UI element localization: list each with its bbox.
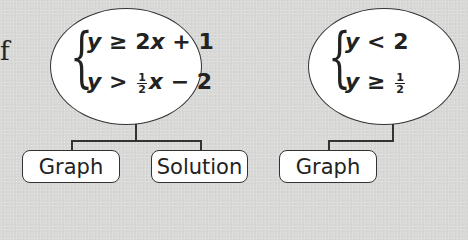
- graph-label: Graph: [39, 155, 103, 179]
- inequality-system-2: { y < 2 y ≥ 12: [328, 18, 468, 114]
- solution-box-1: Solution: [151, 150, 248, 183]
- solution-label: Solution: [157, 155, 243, 179]
- connector-bar-1: [71, 140, 201, 142]
- inequality-line-2: y ≥ 12: [345, 69, 407, 95]
- graph-box-2: Graph: [279, 150, 377, 183]
- inequality-line-1: y < 2: [345, 29, 408, 54]
- fraction: 12: [395, 72, 405, 95]
- graph-label: Graph: [296, 155, 360, 179]
- connector-bar-2: [328, 140, 394, 142]
- inequality-line-2: y > 12x − 2: [87, 69, 212, 95]
- graph-box-1: Graph: [22, 150, 120, 183]
- text-fragment: f: [0, 36, 10, 66]
- fraction: 12: [137, 72, 147, 95]
- inequality-line-1: y ≥ 2x + 1: [87, 29, 214, 54]
- inequality-system-1: { y ≥ 2x + 1 y > 12x − 2: [70, 18, 210, 114]
